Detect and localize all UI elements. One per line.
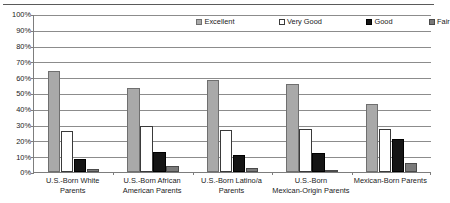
legend-item-excellent[interactable]: Excellent [196, 18, 235, 25]
bar-very-good[interactable] [379, 129, 392, 172]
x-axis-label-5: Mexican-Born Parents [351, 176, 430, 186]
y-axis-tick-label: 40% [2, 106, 31, 113]
y-axis: 0%10%20%30%40%50%60%70%80%90%100% [0, 15, 31, 173]
legend-label: Very Good [287, 18, 322, 25]
y-axis-tick-label: 90% [2, 27, 31, 34]
x-axis-label-3: U.S.-Born Latino/aParents [192, 176, 271, 195]
x-axis-label-4: U.S.-BornMexican-Origin Parents [271, 176, 350, 195]
bar-group [352, 14, 431, 172]
y-axis-tick-label: 0% [2, 169, 31, 176]
bar-very-good[interactable] [220, 130, 233, 172]
y-axis-tick-label: 70% [2, 59, 31, 66]
bar-excellent[interactable] [366, 104, 379, 172]
x-axis-group-separator [430, 172, 431, 175]
bar-fair[interactable] [325, 170, 338, 172]
bar-good[interactable] [74, 159, 87, 172]
legend-label: Fair [437, 18, 450, 25]
bar-good[interactable] [233, 155, 246, 172]
x-axis-label-2: U.S.-Born AfricanAmerican Parents [112, 176, 191, 195]
legend-swatch-icon [429, 19, 435, 25]
chart-legend: ExcellentVery GoodGoodFair [196, 16, 450, 27]
bar-group [113, 14, 192, 172]
bar-good[interactable] [392, 139, 405, 172]
legend-swatch-icon [196, 19, 202, 25]
bar-fair[interactable] [405, 163, 418, 172]
legend-item-very-good[interactable]: Very Good [279, 18, 322, 25]
x-axis-label-line: American Parents [112, 186, 191, 196]
bar-very-good[interactable] [61, 131, 74, 172]
x-axis-group-separator [113, 172, 114, 175]
bar-fair[interactable] [246, 168, 259, 172]
y-axis-tick-label: 60% [2, 75, 31, 82]
y-axis-tick-label: 80% [2, 43, 31, 50]
y-axis-tick-label: 10% [2, 154, 31, 161]
bar-very-good[interactable] [140, 126, 153, 172]
bar-good[interactable] [153, 152, 166, 172]
x-axis-label-line: Parents [192, 186, 271, 196]
x-axis-label-line: U.S.-Born Latino/a [192, 176, 271, 186]
x-axis-group-separator [352, 172, 353, 175]
x-axis-label-line: U.S.-Born African [112, 176, 191, 186]
x-axis-label-line: U.S.-Born [271, 176, 350, 186]
y-axis-tick-label: 30% [2, 122, 31, 129]
bar-fair[interactable] [87, 169, 100, 172]
legend-item-fair[interactable]: Fair [429, 18, 450, 25]
bar-excellent[interactable] [286, 84, 299, 172]
top-divider-rule [3, 4, 434, 5]
x-axis-label-line: U.S.-Born White Parents [33, 176, 112, 195]
legend-swatch-icon [366, 19, 372, 25]
bar-good[interactable] [312, 153, 325, 172]
x-axis-label-1: U.S.-Born White Parents [33, 176, 112, 195]
y-axis-tick-label: 20% [2, 138, 31, 145]
x-axis-group-separator [272, 172, 273, 175]
legend-swatch-icon [279, 19, 285, 25]
bar-very-good[interactable] [299, 129, 312, 172]
x-axis-group-separator [193, 172, 194, 175]
x-axis-label-line: Mexican-Origin Parents [271, 186, 350, 196]
bar-excellent[interactable] [48, 71, 61, 172]
plot-area [33, 15, 430, 173]
bar-group [193, 14, 272, 172]
legend-item-good[interactable]: Good [366, 18, 393, 25]
bar-group [272, 14, 351, 172]
y-axis-tick-label: 100% [2, 11, 31, 18]
bar-group [34, 14, 113, 172]
legend-label: Good [374, 18, 392, 25]
x-axis-category-labels: U.S.-Born White ParentsU.S.-Born African… [33, 176, 430, 202]
x-axis-label-line: Mexican-Born Parents [351, 176, 430, 186]
bar-excellent[interactable] [127, 88, 140, 172]
y-axis-tick-label: 50% [2, 90, 31, 97]
bar-excellent[interactable] [207, 80, 220, 172]
bar-fair[interactable] [166, 166, 179, 172]
legend-label: Excellent [205, 18, 235, 25]
y-axis-tick-mark [31, 173, 34, 174]
